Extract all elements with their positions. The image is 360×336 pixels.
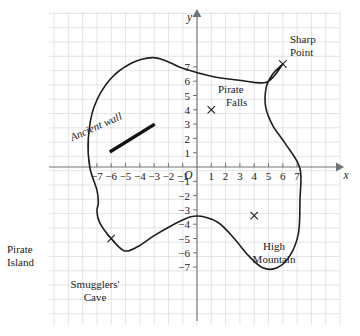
x-tick-label: −5 <box>120 170 132 182</box>
y-tick-label: 6 <box>185 75 191 87</box>
x-tick-label: 5 <box>266 170 272 182</box>
y-tick-label: 2 <box>185 133 191 145</box>
x-tick-label: −4 <box>134 170 146 182</box>
x-axis-label: x <box>342 169 349 181</box>
label-sharp-point-line2: Point <box>290 46 316 59</box>
y-tick-label: 1 <box>185 147 191 159</box>
x-tick-label: −6 <box>105 170 117 182</box>
label-pirate-falls: Pirate Falls <box>218 83 247 109</box>
label-pirate-island: Pirate Island <box>7 243 34 269</box>
label-sharp-point-line1: Sharp <box>290 33 316 46</box>
island-coastline <box>88 58 301 270</box>
origin-label: O <box>184 169 193 181</box>
pirate-island-map-figure: −7 −6 −5 −4 −3 −2 −1 1 2 3 4 5 6 7 7 6 5… <box>0 0 360 336</box>
x-tick-label: 2 <box>223 170 229 182</box>
label-smugglers-cave: Smugglers' Cave <box>57 278 133 304</box>
label-pirate-falls-line1: Pirate <box>218 83 247 96</box>
y-tick-label: −6 <box>178 247 190 259</box>
label-high-mountain-line2: Mountain <box>240 253 308 266</box>
x-tick-label: 6 <box>280 170 286 182</box>
y-tick-label: −7 <box>178 261 190 273</box>
y-tick-label: −4 <box>178 218 190 230</box>
ancient-wall-segment <box>110 124 155 152</box>
x-tick-label: 1 <box>209 170 215 182</box>
x-tick-label: −2 <box>163 170 175 182</box>
x-tick-label: −3 <box>148 170 160 182</box>
y-tick-label: −2 <box>178 190 190 202</box>
x-tick-label: 4 <box>251 170 257 182</box>
label-pirate-island-line1: Pirate <box>7 243 34 256</box>
y-tick-label: −5 <box>178 233 190 245</box>
label-smugglers-cave-line2: Cave <box>57 291 133 304</box>
y-tick-label: 3 <box>185 118 191 130</box>
x-tick-label: 7 <box>294 170 300 182</box>
label-smugglers-cave-line1: Smugglers' <box>57 278 133 291</box>
label-high-mountain: High Mountain <box>240 240 308 266</box>
y-tick-label: 4 <box>185 104 191 116</box>
x-tick-label: 3 <box>237 170 243 182</box>
label-pirate-falls-line2: Falls <box>218 96 247 109</box>
y-tick-label: −3 <box>178 204 190 216</box>
label-pirate-island-line2: Island <box>7 256 34 269</box>
x-tick-labels: −7 −6 −5 −4 −3 −2 −1 1 2 3 4 5 6 7 <box>91 170 300 182</box>
label-sharp-point: Sharp Point <box>290 33 316 59</box>
y-tick-label: 5 <box>185 90 191 102</box>
label-high-mountain-line1: High <box>240 240 308 253</box>
y-axis-label: y <box>186 11 193 24</box>
